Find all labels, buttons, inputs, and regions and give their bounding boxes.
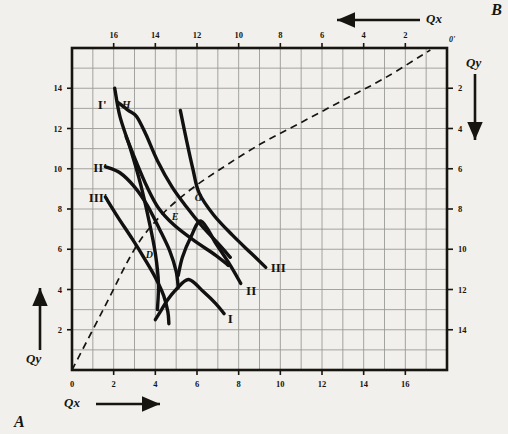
tick-right-6: 6	[458, 165, 462, 174]
tick-top-12: 12	[193, 31, 202, 40]
tick-bottom-16: 16	[401, 380, 410, 389]
tick-right-10: 10	[458, 245, 467, 254]
tick-left-4: 4	[58, 285, 62, 294]
tick-left-12: 12	[54, 124, 63, 133]
tick-bottom-10: 10	[276, 380, 285, 389]
tick-bottom-14: 14	[359, 380, 368, 389]
axis-name-right-qy: Qy	[466, 56, 481, 69]
curve-label-III: III	[271, 261, 286, 274]
tick-top-14: 14	[151, 31, 160, 40]
axis-name-left-qy: Qy	[26, 352, 41, 365]
curve-label-H-branch: H	[122, 99, 131, 110]
tick-right-8: 8	[458, 205, 462, 214]
curve-set	[105, 88, 265, 323]
tick-right-4: 4	[458, 124, 462, 133]
curve-label-III-prime: III'	[89, 190, 108, 203]
tick-top-8: 8	[278, 31, 282, 40]
tick-bottom-0: 0	[70, 380, 74, 389]
point-label-E: E	[172, 212, 179, 222]
plot-svg	[0, 0, 508, 434]
curve-label-I: I	[228, 311, 233, 324]
tick-bottom-2: 2	[112, 380, 116, 389]
corner-label-a: A	[14, 414, 25, 430]
tick-right-12: 12	[458, 285, 467, 294]
tick-bottom-8: 8	[237, 380, 241, 389]
grid-lines	[72, 48, 447, 370]
curve-label-II: II	[246, 283, 256, 296]
origin-prime-label: 0'	[449, 36, 455, 44]
curve-label-I-prime: I'	[98, 98, 107, 111]
axis-direction-arrows	[40, 20, 475, 404]
tick-left-2: 2	[58, 326, 62, 335]
tick-top-4: 4	[362, 31, 366, 40]
figure-canvas: B A Qx Qy Qx Qy 0' 024681012141624681012…	[0, 0, 508, 434]
corner-label-b: B	[491, 2, 502, 18]
point-label-D: D	[146, 250, 153, 260]
tick-top-6: 6	[320, 31, 324, 40]
tick-right-2: 2	[458, 84, 462, 93]
point-label-G: G	[195, 193, 202, 203]
tick-bottom-12: 12	[318, 380, 327, 389]
tick-top-10: 10	[234, 31, 243, 40]
tick-left-6: 6	[58, 245, 62, 254]
curve-label-II-prime: II'	[93, 160, 107, 173]
tick-bottom-6: 6	[195, 380, 199, 389]
tick-right-14: 14	[458, 326, 467, 335]
tick-top-16: 16	[109, 31, 118, 40]
axis-name-top-qx: Qx	[426, 12, 442, 25]
tick-top-2: 2	[403, 31, 407, 40]
tick-left-14: 14	[54, 84, 63, 93]
tick-left-10: 10	[54, 165, 63, 174]
tick-left-8: 8	[58, 205, 62, 214]
tick-bottom-4: 4	[153, 380, 157, 389]
axis-name-bottom-qx: Qx	[64, 396, 80, 409]
